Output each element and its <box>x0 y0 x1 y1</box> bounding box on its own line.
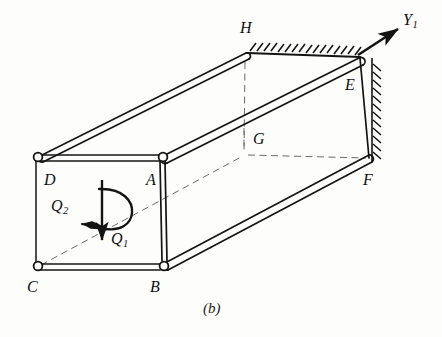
vertex-label-A: A <box>146 172 156 188</box>
edge-D-A <box>41 155 160 161</box>
node-A <box>159 153 168 162</box>
torque-label-Q2-subscript: 2 <box>63 205 68 216</box>
edge-H-G <box>244 62 245 152</box>
edge-G-F <box>248 155 366 158</box>
vertex-label-G: G <box>253 131 265 147</box>
edge-A-B <box>160 161 167 261</box>
vertex-label-B: B <box>150 279 160 295</box>
vertex-label-C: C <box>27 279 38 295</box>
node-B <box>160 262 169 271</box>
edge-C-B <box>41 264 160 270</box>
vertex-label-E: E <box>345 77 355 93</box>
node-C <box>34 262 43 271</box>
axis-label-Y1: Y1 <box>403 12 417 28</box>
fixed-support-right-hatching <box>373 64 381 159</box>
torque-Q2-arc <box>99 189 132 229</box>
axis-label-Y1-base: Y <box>403 11 412 28</box>
figure-container: D A C B H E G F Y1 Q1 Q2 (b) <box>0 0 442 337</box>
vertex-label-H: H <box>240 20 252 36</box>
force-label-Q1-base: Q <box>111 230 123 247</box>
edge-D-H <box>39 53 251 162</box>
force-label-Q1-subscript: 1 <box>123 238 128 249</box>
edge-H-E <box>247 53 360 57</box>
edge-E-F <box>360 58 369 158</box>
edge-C-G <box>41 157 241 265</box>
figure-caption: (b) <box>203 300 221 317</box>
vertex-label-D: D <box>44 172 56 188</box>
axis-label-Y1-subscript: 1 <box>412 19 417 30</box>
force-label-Q1: Q1 <box>111 231 128 247</box>
edge-B-F <box>164 155 374 270</box>
axis-Y1-arrow <box>358 29 398 55</box>
box-beam-diagram <box>0 0 442 337</box>
edge-A-E <box>161 57 365 163</box>
node-D <box>34 153 43 162</box>
vertex-label-F: F <box>363 172 373 188</box>
torque-label-Q2: Q2 <box>51 198 68 214</box>
hidden-edges-group <box>41 62 366 265</box>
torque-label-Q2-base: Q <box>51 197 63 214</box>
